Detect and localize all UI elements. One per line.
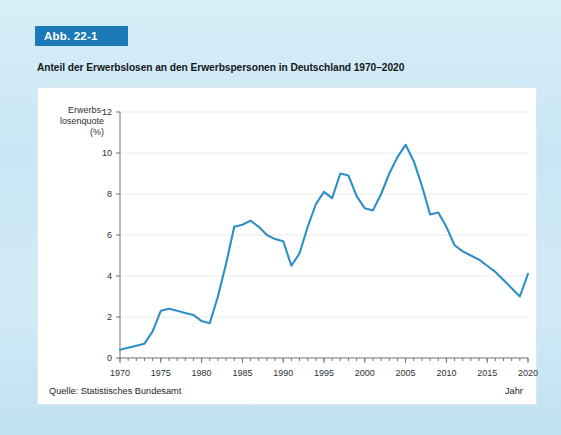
chart-plot-area: 024681012 197019751980198519901995200020… <box>38 88 538 406</box>
svg-text:2010: 2010 <box>436 368 456 378</box>
svg-text:8: 8 <box>107 189 112 199</box>
line-chart: 024681012 197019751980198519901995200020… <box>38 88 538 406</box>
svg-text:(%): (%) <box>90 127 104 137</box>
svg-text:4: 4 <box>107 271 112 281</box>
axis-ticks <box>116 112 528 363</box>
figure-number-label: Abb. 22-1 <box>44 30 98 42</box>
svg-text:0: 0 <box>107 353 112 363</box>
svg-text:2015: 2015 <box>477 368 497 378</box>
chart-card: 024681012 197019751980198519901995200020… <box>37 87 537 405</box>
gridlines <box>120 112 528 317</box>
y-tick-labels: 024681012 <box>102 107 112 363</box>
svg-text:1970: 1970 <box>110 368 130 378</box>
svg-text:2005: 2005 <box>396 368 416 378</box>
x-axis-title-label: Jahr <box>505 386 523 396</box>
svg-text:2000: 2000 <box>355 368 375 378</box>
data-series <box>120 145 528 350</box>
figure-number-badge: Abb. 22-1 <box>35 26 128 46</box>
svg-text:1995: 1995 <box>314 368 334 378</box>
svg-text:Erwerbs-: Erwerbs- <box>68 105 104 115</box>
svg-text:10: 10 <box>102 148 112 158</box>
figure-title: Anteil der Erwerbslosen an den Erwerbspe… <box>37 62 404 73</box>
svg-text:1975: 1975 <box>151 368 171 378</box>
svg-text:1990: 1990 <box>273 368 293 378</box>
svg-text:2: 2 <box>107 312 112 322</box>
svg-text:6: 6 <box>107 230 112 240</box>
svg-text:losenquote: losenquote <box>60 116 104 126</box>
x-tick-labels: 1970197519801985199019952000200520102015… <box>110 368 538 378</box>
svg-text:1985: 1985 <box>232 368 252 378</box>
source-note: Quelle: Statistisches Bundesamt <box>49 386 181 396</box>
svg-text:2020: 2020 <box>518 368 538 378</box>
svg-text:1980: 1980 <box>192 368 212 378</box>
y-axis-title: Erwerbs-losenquote(%) <box>60 105 104 137</box>
figure-sheet: Abb. 22-1 Anteil der Erwerbslosen an den… <box>13 8 548 427</box>
